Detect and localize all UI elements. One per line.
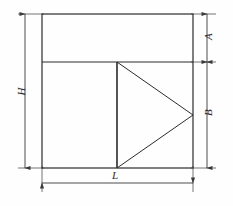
inscribed-triangle [117,62,193,168]
dimension-label-height: H [16,83,27,101]
dimension-label-lower-band: B [203,104,214,122]
dimension-label-upper-band: A [203,28,214,46]
figure-container: H A B L [0,0,233,206]
dimension-label-length: L [108,170,122,181]
